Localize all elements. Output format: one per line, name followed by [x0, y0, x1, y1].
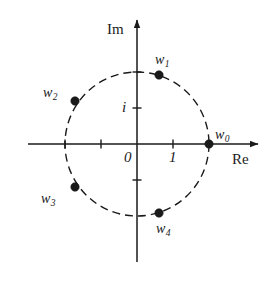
root-label-w3: w3	[41, 192, 55, 209]
real-axis-label: Re	[232, 152, 249, 167]
root-label-base: w	[215, 127, 224, 142]
root-label-base: w	[41, 191, 50, 206]
origin-label: 0	[124, 150, 132, 165]
root-label-w2: w2	[43, 86, 57, 103]
root-label-w1: w1	[155, 53, 169, 70]
root-point-w1	[155, 71, 163, 79]
root-label-base: w	[155, 52, 164, 67]
root-label-base: w	[43, 85, 52, 100]
root-point-w4	[155, 209, 163, 217]
tick-label-i: i	[122, 100, 126, 115]
axis-tick-marks	[65, 72, 173, 180]
complex-plane-figure: Im Re 0 1 i w0w1w2w3w4	[0, 0, 276, 282]
plot-canvas	[0, 0, 276, 282]
root-label-w0: w0	[215, 128, 229, 145]
imaginary-axis-label: Im	[107, 22, 124, 37]
root-label-w4: w4	[156, 222, 170, 239]
root-point-w0	[205, 140, 213, 148]
root-label-base: w	[156, 221, 165, 236]
root-label-subscript: 1	[165, 59, 170, 69]
root-point-w2	[71, 97, 79, 105]
root-label-subscript: 0	[225, 134, 230, 144]
root-point-w3	[71, 183, 79, 191]
root-label-subscript: 3	[51, 198, 56, 208]
tick-label-one: 1	[169, 150, 177, 165]
root-label-subscript: 4	[166, 228, 171, 238]
root-label-subscript: 2	[53, 92, 58, 102]
